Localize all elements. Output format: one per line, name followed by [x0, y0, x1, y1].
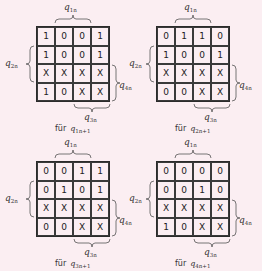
- cell: 1: [193, 27, 211, 46]
- cell: 1: [55, 181, 73, 200]
- label-q1n: q1n: [64, 2, 77, 13]
- cell: 0: [37, 181, 55, 200]
- cell: 0: [175, 218, 193, 237]
- cell: X: [211, 64, 229, 83]
- kmap-q3: q1n q2n 0011 0101 XXXX 00XX q4n q3n fürq…: [0, 135, 134, 270]
- label-q1n: q1n: [184, 2, 197, 13]
- cell: 0: [37, 162, 55, 181]
- cell: X: [91, 199, 109, 218]
- cell: 0: [55, 27, 73, 46]
- cell: 1: [37, 27, 55, 46]
- cell: X: [91, 218, 109, 237]
- cell: 0: [157, 83, 175, 102]
- kmap-q1: q1n q2n 1001 1001 XXXX 10XX q4n q3n fürq…: [0, 0, 134, 135]
- cell: X: [193, 199, 211, 218]
- kmap-q4: q1n q2n 0000 0010 XXXX 10XX q4n q3n fürq…: [120, 135, 254, 270]
- label-q3n: q3n: [204, 247, 217, 258]
- brace-left: [25, 180, 35, 218]
- cell: X: [73, 199, 91, 218]
- cell: 0: [55, 46, 73, 65]
- brace-top: [174, 14, 212, 24]
- cell: 1: [157, 218, 175, 237]
- cell: X: [211, 199, 229, 218]
- cell: X: [193, 64, 211, 83]
- cell: 1: [211, 46, 229, 65]
- cell: 0: [175, 162, 193, 181]
- caption: fürq4n+1: [175, 259, 210, 269]
- cell: 0: [73, 181, 91, 200]
- karnaugh-grid: 0110 1001 XXXX 00XX: [156, 26, 230, 102]
- brace-top: [174, 149, 212, 159]
- label-q3n: q3n: [84, 247, 97, 258]
- karnaugh-grid: 1001 1001 XXXX 10XX: [36, 26, 110, 102]
- cell: 0: [157, 181, 175, 200]
- cell: X: [55, 64, 73, 83]
- label-q4n: q4n: [239, 215, 252, 226]
- cell: X: [157, 64, 175, 83]
- karnaugh-grid: 0000 0010 XXXX 10XX: [156, 161, 230, 237]
- cell: 0: [193, 162, 211, 181]
- label-q3n: q3n: [84, 112, 97, 123]
- caption: fürq2n+1: [175, 124, 210, 134]
- cell: X: [157, 199, 175, 218]
- cell: 0: [55, 83, 73, 102]
- caption: fürq3n+1: [55, 259, 90, 269]
- brace-left: [25, 45, 35, 83]
- cell: 0: [73, 46, 91, 65]
- cell: 0: [157, 27, 175, 46]
- cell: 1: [37, 46, 55, 65]
- cell: X: [37, 199, 55, 218]
- brace-top: [54, 149, 92, 159]
- cell: 0: [211, 27, 229, 46]
- cell: X: [91, 83, 109, 102]
- cell: 0: [175, 83, 193, 102]
- karnaugh-grid: 0011 0101 XXXX 00XX: [36, 161, 110, 237]
- cell: X: [193, 218, 211, 237]
- cell: 0: [175, 181, 193, 200]
- cell: 0: [175, 46, 193, 65]
- cell: 1: [175, 27, 193, 46]
- brace-left: [145, 45, 155, 83]
- brace-top: [54, 14, 92, 24]
- cell: X: [73, 218, 91, 237]
- label-q4n: q4n: [239, 80, 252, 91]
- label-q1n: q1n: [184, 137, 197, 148]
- cell: 1: [157, 46, 175, 65]
- cell: 0: [55, 218, 73, 237]
- cell: X: [175, 199, 193, 218]
- cell: X: [73, 64, 91, 83]
- label-q2n: q2n: [5, 193, 18, 204]
- cell: X: [37, 64, 55, 83]
- cell: X: [211, 83, 229, 102]
- cell: X: [55, 199, 73, 218]
- cell: 0: [73, 27, 91, 46]
- cell: X: [175, 64, 193, 83]
- caption: fürq1n+1: [55, 124, 90, 134]
- cell: 1: [91, 162, 109, 181]
- cell: 1: [91, 181, 109, 200]
- cell: 0: [55, 162, 73, 181]
- label-q1n: q1n: [64, 137, 77, 148]
- cell: X: [73, 83, 91, 102]
- label-q3n: q3n: [204, 112, 217, 123]
- cell: 0: [211, 181, 229, 200]
- cell: 1: [91, 27, 109, 46]
- cell: 0: [211, 162, 229, 181]
- label-q2n: q2n: [129, 193, 142, 204]
- cell: X: [211, 218, 229, 237]
- cell: 1: [73, 162, 91, 181]
- label-q2n: q2n: [129, 58, 142, 69]
- cell: 0: [37, 218, 55, 237]
- cell: 0: [157, 162, 175, 181]
- label-q2n: q2n: [5, 58, 18, 69]
- brace-left: [145, 180, 155, 218]
- cell: X: [193, 83, 211, 102]
- cell: X: [91, 64, 109, 83]
- kmap-q2: q1n q2n 0110 1001 XXXX 00XX q4n q3n fürq…: [120, 0, 254, 135]
- cell: 1: [193, 181, 211, 200]
- cell: 1: [91, 46, 109, 65]
- cell: 0: [193, 46, 211, 65]
- cell: 1: [37, 83, 55, 102]
